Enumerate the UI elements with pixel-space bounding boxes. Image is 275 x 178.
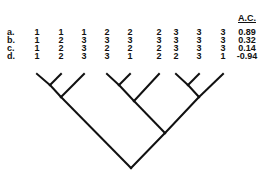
- tree-branch: [134, 101, 165, 133]
- tree-branch: [61, 74, 84, 97]
- tree-branch: [199, 74, 223, 97]
- tree-branch: [37, 74, 50, 85]
- tree-branch: [188, 74, 199, 85]
- tree-branch: [50, 74, 61, 85]
- tree-branch: [134, 74, 159, 101]
- tree-branch: [107, 74, 119, 85]
- tree-branch: [188, 85, 199, 97]
- tree-branch: [119, 85, 134, 101]
- tree-branch: [50, 85, 61, 97]
- tree-branch: [131, 133, 165, 168]
- tree-branch: [61, 97, 131, 168]
- tree-branch: [176, 74, 188, 85]
- cladogram-tree: [0, 0, 275, 178]
- tree-branch: [165, 97, 199, 133]
- tree-branch: [119, 74, 130, 85]
